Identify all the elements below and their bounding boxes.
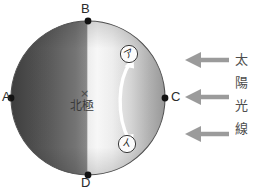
sunlight-caption-char-3: 光 [235,94,248,117]
earth-sunlight-diagram [0,0,262,193]
sunlight-caption-char-1: 太 [235,48,248,71]
sunlight-caption: 太 陽 光 線 [235,48,248,140]
sunlight-arrow-1-head [185,52,201,68]
sunlight-caption-char-4: 線 [235,117,248,140]
cardinal-label-c: C [171,90,180,103]
cardinal-label-b: B [81,2,90,15]
dot-c [162,95,169,102]
dot-b [85,18,92,25]
north-pole-label: 北極 [70,100,94,112]
sunlight-caption-char-2: 陽 [235,71,248,94]
sunlight-arrow-3 [185,126,229,142]
sunlight-arrow-1 [185,52,229,68]
cardinal-label-d: D [81,176,90,189]
sunlight-arrow-2 [185,89,229,105]
diagram-canvas: B A C D × 北極 ア イ 太 陽 光 線 [0,0,262,193]
cardinal-label-a: A [2,90,11,103]
sunlight-arrow-2-head [185,89,201,105]
sunlight-arrows [185,52,229,142]
north-pole-cross-marker: × [80,88,89,99]
sunlight-arrow-3-head [185,126,201,142]
